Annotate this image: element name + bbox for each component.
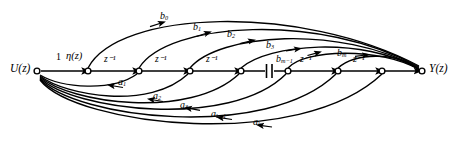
coef-bm1-sub: m−1 xyxy=(281,57,293,64)
coef-ak1: ak−1 xyxy=(211,109,226,119)
delay-label-1: z⁻¹ xyxy=(104,55,116,65)
input-gain-label: 1 xyxy=(56,52,61,62)
coef-b1-sub: 1 xyxy=(198,25,201,32)
coef-b1: b1 xyxy=(193,22,201,32)
coef-b3: b3 xyxy=(266,40,274,50)
figure-canvas: U(z) Y(z) 1 η(z) z⁻¹ z⁻¹ z⁻¹ z⁻¹ z⁻¹ b0 … xyxy=(0,0,469,141)
delay-label-2: z⁻¹ xyxy=(155,55,167,65)
coef-b0: b0 xyxy=(160,11,168,21)
node-u xyxy=(34,68,40,74)
delay-label-3: z⁻¹ xyxy=(206,55,218,65)
coef-a1: a1 xyxy=(118,77,126,87)
signal-flow-graph-svg xyxy=(0,0,469,141)
coef-a2-sub: 2 xyxy=(158,94,161,101)
node-1 xyxy=(85,68,91,74)
coef-ak-sub: k xyxy=(258,120,261,127)
branch-a3 xyxy=(40,74,239,103)
chain-break-icon xyxy=(267,64,273,78)
delay-label-5: z⁻¹ xyxy=(353,55,365,65)
node-7 xyxy=(379,68,385,74)
feedforward-branches xyxy=(88,22,419,71)
input-terminal-label: U(z) xyxy=(10,63,30,75)
output-terminal-label: Y(z) xyxy=(429,63,448,75)
coef-a3-sub: 3 xyxy=(185,103,188,110)
node-2 xyxy=(136,68,142,74)
coef-b3-sub: 3 xyxy=(271,43,274,50)
coef-b2: b2 xyxy=(227,29,235,39)
coef-a2: a2 xyxy=(153,91,161,101)
node-3 xyxy=(187,68,193,74)
coef-b0-sub: 0 xyxy=(165,14,168,21)
eta-transfer-label: η(z) xyxy=(66,51,82,62)
coef-bm1: bm−1 xyxy=(276,54,293,64)
node-6 xyxy=(335,68,341,74)
branch-b0-arrow xyxy=(150,23,162,27)
coef-b2-sub: 2 xyxy=(232,32,235,39)
coef-bm-sub: m xyxy=(342,51,346,58)
branch-ak-arrow xyxy=(260,125,272,127)
branch-a2 xyxy=(40,74,188,96)
coef-a3: a3 xyxy=(180,100,188,110)
node-5 xyxy=(285,68,291,74)
coef-ak: ak xyxy=(253,117,261,127)
node-4 xyxy=(238,68,244,74)
coef-a1-sub: 1 xyxy=(123,80,126,87)
coef-ak1-sub: k−1 xyxy=(216,112,226,119)
node-y xyxy=(419,68,425,74)
delay-label-4: z⁻¹ xyxy=(300,55,312,65)
branch-b0 xyxy=(88,22,419,68)
coef-bm: bm xyxy=(337,48,346,58)
